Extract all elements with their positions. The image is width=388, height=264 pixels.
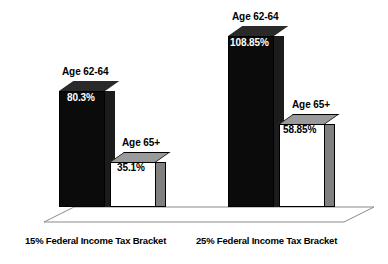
bar-side-face <box>324 124 335 207</box>
value-label-group0-age62-64: 80.3% <box>67 92 95 103</box>
value-label-group1-age65plus: 58.85% <box>283 124 316 135</box>
bar-front-face <box>228 36 274 207</box>
series-label-group0-age62-64: Age 62-64 <box>62 66 108 77</box>
value-label-group1-age62-64: 108.85% <box>230 37 269 48</box>
bar-group0-age65plus[interactable] <box>110 152 166 207</box>
series-label-group1-age65plus: Age 65+ <box>292 99 330 110</box>
bar-top-face <box>110 152 170 162</box>
bar-top-face <box>59 81 119 91</box>
category-label-group1: 25% Federal Income Tax Bracket <box>196 235 337 246</box>
bar-top-face <box>228 26 288 36</box>
series-label-group0-age65plus: Age 65+ <box>122 137 160 148</box>
category-label-group0: 15% Federal Income Tax Bracket <box>25 235 166 246</box>
bar-front-face <box>59 91 105 207</box>
bar-side-face <box>155 162 166 207</box>
series-label-group1-age62-64: Age 62-64 <box>232 11 278 22</box>
bar-front-face <box>279 124 325 207</box>
bar-chart: Age 62-64 80.3% Age 65+ 35.1% 15% Federa… <box>0 0 388 264</box>
bar-top-face <box>279 114 339 124</box>
value-label-group0-age65plus: 35.1% <box>117 162 145 173</box>
bar-group1-age62-64[interactable] <box>228 26 284 207</box>
